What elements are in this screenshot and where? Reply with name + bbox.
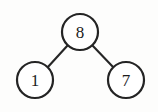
node-left-child-label: 1 <box>31 71 40 90</box>
node-left-child[interactable]: 1 <box>17 62 53 98</box>
node-root-label: 8 <box>76 23 85 42</box>
binary-tree-figure: 8 1 7 <box>0 0 158 112</box>
tree-canvas: 8 1 7 <box>0 0 158 112</box>
edge-root-to-left <box>47 45 68 68</box>
node-root[interactable]: 8 <box>62 14 98 50</box>
node-right-child-label: 7 <box>122 71 131 90</box>
node-group: 8 1 7 <box>17 14 144 98</box>
edge-root-to-right <box>92 45 114 68</box>
node-right-child[interactable]: 7 <box>108 62 144 98</box>
